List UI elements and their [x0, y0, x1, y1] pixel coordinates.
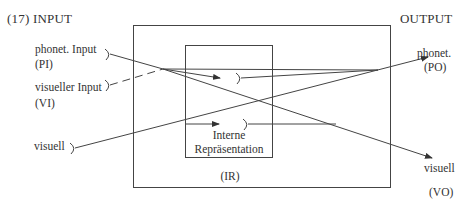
input-visuell-label: visuell — [34, 140, 65, 153]
figure-number: (17) INPUT — [7, 12, 72, 25]
inner-upper-output-line — [241, 70, 378, 78]
pi-line — [110, 54, 163, 69]
vi-receptor-icon — [105, 80, 109, 91]
vi-dashed-line — [110, 69, 163, 85]
input-vi-abbr: (VI) — [35, 97, 55, 110]
receptor-icon — [236, 73, 240, 84]
pi-receptor-icon — [105, 49, 109, 60]
input-heading: INPUT — [33, 11, 72, 26]
outer-box-abbr: (IR) — [210, 170, 250, 183]
output-vo-abbr: (VO) — [429, 186, 453, 199]
top-line — [163, 69, 378, 70]
input-pi-label: phonet. Input — [35, 43, 96, 56]
inner-box-label-line2: Repräsentation — [186, 143, 272, 156]
input-vi-label: visueller Input — [35, 81, 102, 94]
output-vo-label: visuell — [424, 162, 455, 175]
visuell-receptor-icon — [70, 143, 74, 154]
output-po-abbr: (PO) — [424, 61, 446, 74]
output-heading: OUTPUT — [400, 12, 452, 25]
inner-box-label-line1: Interne — [186, 129, 272, 142]
pi-arrow-line — [163, 69, 220, 78]
figure-number-text: (17) — [7, 11, 29, 26]
input-pi-abbr: (PI) — [35, 58, 53, 71]
outer-box — [134, 26, 391, 188]
output-po-label: phonet. — [417, 47, 451, 60]
